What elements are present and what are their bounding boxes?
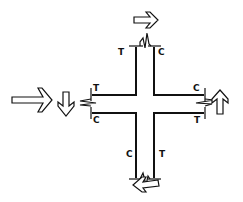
label-right-top: C <box>193 83 200 93</box>
label-top-right: C <box>158 47 165 57</box>
arrow-right-long-icon <box>12 88 52 112</box>
intersection-diagram: T C T C C T C T <box>0 0 243 202</box>
arrow-right-icon <box>134 12 158 28</box>
arrow-up-icon <box>212 90 228 114</box>
cross-walls <box>92 47 204 178</box>
top-entry-sensor <box>129 33 161 48</box>
label-bottom-left: C <box>126 149 133 159</box>
label-left-bottom: C <box>93 115 100 125</box>
label-left-top: T <box>93 83 100 93</box>
label-right-bottom: T <box>194 115 201 125</box>
label-top-left: T <box>118 47 125 57</box>
arrow-down-icon <box>58 92 74 116</box>
label-bottom-right: T <box>159 149 166 159</box>
